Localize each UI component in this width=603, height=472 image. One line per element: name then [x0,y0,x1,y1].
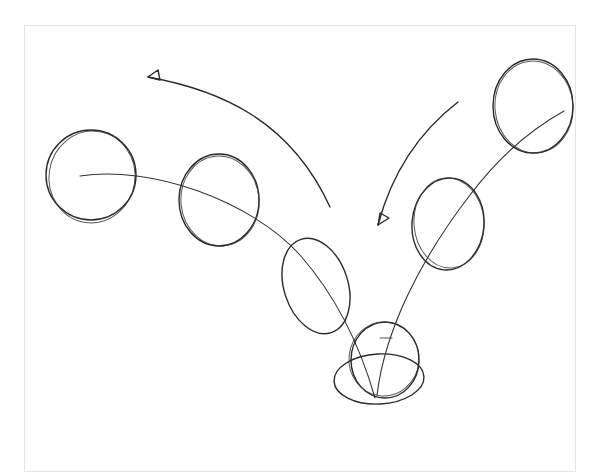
ball-5 [408,175,488,273]
ball-2 [177,152,264,250]
ball-6 [491,58,577,156]
arrow-right-icon [378,102,458,225]
arrow-left-icon [148,70,330,207]
trajectory-path-ascent [377,111,564,395]
ball-1 [43,125,141,228]
ball-3 [270,230,361,343]
ball-4 [333,319,425,407]
